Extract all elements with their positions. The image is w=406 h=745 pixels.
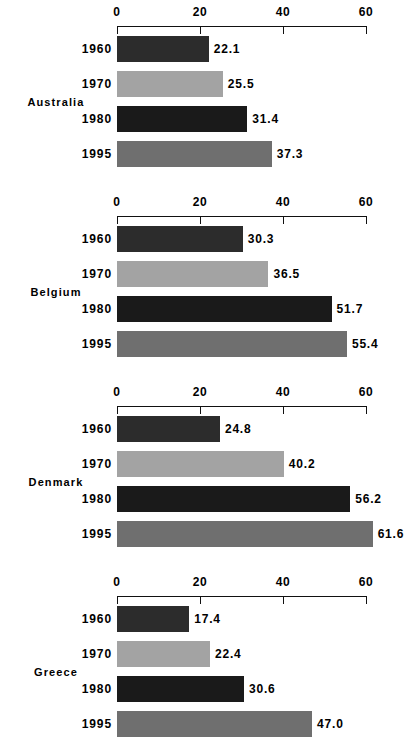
year-label-wrap: 1960 (62, 606, 112, 632)
axis-tick-label: 0 (113, 196, 120, 208)
year-label: 1960 (66, 226, 112, 252)
axis-tick (117, 26, 118, 34)
bar (117, 106, 247, 132)
bar-value-label: 36.5 (273, 261, 300, 287)
bar (117, 711, 312, 737)
year-label: 1970 (66, 641, 112, 667)
bar (117, 641, 210, 667)
bar-row: 198051.7 (0, 296, 406, 322)
year-label-wrap: 1995 (62, 331, 112, 357)
bar-row: 198031.4 (0, 106, 406, 132)
year-label: 1980 (66, 676, 112, 702)
bar-value-label: 17.4 (194, 606, 221, 632)
axis-tick (366, 216, 367, 224)
axis-tick-label: 40 (276, 6, 291, 18)
axis-tick (117, 596, 118, 604)
axis-tick (283, 26, 284, 34)
axis-tick-label: 60 (359, 576, 374, 588)
year-label-wrap: 1995 (62, 521, 112, 547)
axis-line (117, 26, 366, 27)
axis-tick (117, 406, 118, 414)
axis-tick-label: 0 (113, 576, 120, 588)
bar (117, 416, 220, 442)
bar-value-label: 30.3 (248, 226, 275, 252)
bar-row: 196024.8 (0, 416, 406, 442)
year-label-wrap: 1960 (62, 226, 112, 252)
bar (117, 486, 350, 512)
bar-row: 199537.3 (0, 141, 406, 167)
year-label-wrap: 1970 (62, 71, 112, 97)
axis-tick (283, 596, 284, 604)
bar-row: 197040.2 (0, 451, 406, 477)
axis-tick-label: 40 (276, 196, 291, 208)
year-label-wrap: 1980 (62, 106, 112, 132)
year-label-wrap: 1960 (62, 36, 112, 62)
axis-tick-label: 40 (276, 386, 291, 398)
bar (117, 521, 373, 547)
axis-tick-label: 20 (193, 6, 208, 18)
year-label: 1970 (66, 71, 112, 97)
bar-value-label: 24.8 (225, 416, 252, 442)
axis-tick-label: 20 (193, 576, 208, 588)
country-panel: 0204060Denmark196024.8197040.2198056.219… (0, 380, 406, 570)
bar-value-label: 31.4 (252, 106, 279, 132)
axis-tick (366, 406, 367, 414)
axis-tick (200, 596, 201, 604)
axis-tick-label: 20 (193, 386, 208, 398)
bar-row: 196017.4 (0, 606, 406, 632)
axis-tick-label: 40 (276, 576, 291, 588)
bar-row: 199555.4 (0, 331, 406, 357)
country-panel: 0204060Greece196017.4197022.4198030.6199… (0, 570, 406, 745)
bar-row: 198030.6 (0, 676, 406, 702)
bar-value-label: 51.7 (337, 296, 364, 322)
bar (117, 141, 272, 167)
year-label: 1995 (66, 711, 112, 737)
year-label-wrap: 1970 (62, 641, 112, 667)
year-label: 1980 (66, 486, 112, 512)
axis-line (117, 406, 366, 407)
axis-tick-label: 0 (113, 386, 120, 398)
bar-row: 199561.6 (0, 521, 406, 547)
axis-tick (200, 26, 201, 34)
bar-value-label: 40.2 (289, 451, 316, 477)
year-label-wrap: 1995 (62, 141, 112, 167)
bar (117, 226, 243, 252)
bar-chart: 0204060Australia196022.1197025.5198031.4… (0, 0, 406, 745)
year-label-wrap: 1980 (62, 296, 112, 322)
axis-tick (283, 216, 284, 224)
axis-tick (283, 406, 284, 414)
axis-tick (366, 596, 367, 604)
x-axis: 0204060 (0, 380, 406, 416)
year-label: 1970 (66, 451, 112, 477)
bar (117, 36, 209, 62)
bar-value-label: 56.2 (355, 486, 382, 512)
bar-value-label: 25.5 (228, 71, 255, 97)
year-label: 1960 (66, 606, 112, 632)
axis-tick (366, 26, 367, 34)
bar-value-label: 22.4 (215, 641, 242, 667)
axis-tick-label: 20 (193, 196, 208, 208)
bar (117, 261, 268, 287)
bar-value-label: 47.0 (317, 711, 344, 737)
year-label: 1960 (66, 36, 112, 62)
axis-tick-label: 60 (359, 6, 374, 18)
year-label: 1980 (66, 296, 112, 322)
bar (117, 606, 189, 632)
bar-row: 197036.5 (0, 261, 406, 287)
axis-tick-label: 60 (359, 196, 374, 208)
year-label: 1970 (66, 261, 112, 287)
year-label: 1960 (66, 416, 112, 442)
year-label-wrap: 1960 (62, 416, 112, 442)
axis-line (117, 216, 366, 217)
bar-row: 196030.3 (0, 226, 406, 252)
bar (117, 676, 244, 702)
bar-row: 199547.0 (0, 711, 406, 737)
year-label: 1995 (66, 141, 112, 167)
year-label-wrap: 1970 (62, 261, 112, 287)
year-label: 1995 (66, 331, 112, 357)
year-label: 1980 (66, 106, 112, 132)
bar-value-label: 61.6 (378, 521, 405, 547)
axis-line (117, 596, 366, 597)
axis-tick-label: 60 (359, 386, 374, 398)
bar-row: 198056.2 (0, 486, 406, 512)
